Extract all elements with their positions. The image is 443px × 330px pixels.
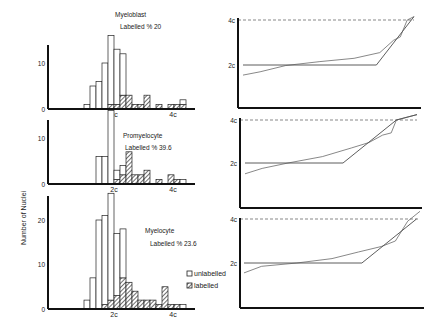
bar-unlabelled xyxy=(96,81,102,109)
bar-unlabelled xyxy=(114,49,120,104)
y-tick-label: 0 xyxy=(41,306,45,313)
panel-subtitle: Labelled % 23.6 xyxy=(150,240,197,247)
bar-labelled xyxy=(114,296,120,309)
histogram-myeloblast: 0102c4cMyeloblastLabelled % 20 xyxy=(38,11,195,118)
bar-unlabelled xyxy=(120,54,126,95)
curve-observed xyxy=(244,211,420,273)
bar-labelled xyxy=(108,300,114,309)
bar-labelled xyxy=(126,95,132,109)
x-tick-label: 2c xyxy=(110,311,118,318)
legend: unlabelled labelled xyxy=(187,270,226,289)
curve-plot-myeloblast: 4c2c xyxy=(228,17,421,109)
bar-labelled xyxy=(126,152,132,184)
histogram-myelocyte: 010202c4cMyelocyteLabelled % 23.6 xyxy=(38,193,197,318)
panel-title: Promyelocyte xyxy=(123,132,163,140)
curve-model xyxy=(243,17,414,65)
y-axis-label: Number of Nuclei xyxy=(20,190,27,245)
bar-unlabelled xyxy=(108,193,114,300)
y-tick-label: 0 xyxy=(41,106,45,113)
bar-labelled xyxy=(120,95,126,109)
curve-model xyxy=(244,219,417,263)
bar-labelled xyxy=(120,175,126,184)
y-tick-label-4c: 4c xyxy=(230,117,238,124)
bar-unlabelled xyxy=(120,166,126,175)
y-tick-label-2c: 2c xyxy=(230,160,238,167)
bar-labelled xyxy=(144,300,150,309)
bar-labelled xyxy=(138,175,144,184)
y-tick-label: 20 xyxy=(38,217,46,224)
curve-plot-myelocyte: 4c2c xyxy=(230,211,424,308)
panel-title: Myeloblast xyxy=(115,11,146,19)
panel-subtitle: Labelled % 39.6 xyxy=(125,144,172,151)
y-tick-label-2c: 2c xyxy=(228,62,236,69)
x-tick-label: 4c xyxy=(169,111,177,118)
bar-labelled xyxy=(138,300,144,309)
curve-model xyxy=(245,115,417,163)
bar-unlabelled xyxy=(114,233,120,295)
legend-label-unlabelled: unlabelled xyxy=(194,270,226,277)
bar-labelled xyxy=(120,278,126,309)
curve-observed xyxy=(243,17,414,76)
y-tick-label: 10 xyxy=(38,261,46,268)
bar-unlabelled xyxy=(114,170,120,179)
bar-labelled xyxy=(168,175,174,184)
legend-swatch-unlabelled xyxy=(187,271,192,276)
legend-swatch-labelled xyxy=(187,283,192,288)
bar-unlabelled xyxy=(108,110,114,184)
bar-unlabelled xyxy=(96,156,102,184)
y-tick-label: 10 xyxy=(38,135,46,142)
bar-unlabelled xyxy=(108,35,114,104)
bar-unlabelled xyxy=(84,300,90,309)
bar-labelled xyxy=(144,170,150,184)
legend-label-labelled: labelled xyxy=(194,282,218,289)
bar-labelled xyxy=(126,282,132,309)
curve-plot-promyelocyte: 4c2c xyxy=(230,115,422,208)
y-tick-label-4c: 4c xyxy=(228,17,236,24)
histogram-promyelocyte: 0102c4cPromyelocyteLabelled % 39.6 xyxy=(38,110,195,193)
bar-unlabelled xyxy=(90,278,96,309)
bar-unlabelled xyxy=(102,156,108,184)
bar-labelled xyxy=(132,175,138,184)
y-tick-label: 0 xyxy=(41,181,45,188)
x-tick-label: 2c xyxy=(110,186,118,193)
bar-unlabelled xyxy=(90,86,96,109)
bar-labelled xyxy=(144,95,150,109)
x-tick-label: 4c xyxy=(169,311,177,318)
y-tick-label-4c: 4c xyxy=(230,216,238,223)
bar-unlabelled xyxy=(180,100,186,105)
bar-unlabelled xyxy=(96,220,102,309)
bar-labelled xyxy=(162,287,168,309)
panel-title: Myelocyte xyxy=(145,227,175,235)
y-tick-label-2c: 2c xyxy=(230,260,238,267)
bar-unlabelled xyxy=(120,229,126,278)
bar-labelled xyxy=(150,300,156,309)
curve-observed xyxy=(245,115,417,174)
panel-subtitle: Labelled % 20 xyxy=(120,23,162,30)
figure: Number of Nuclei 0102c4cMyeloblastLabell… xyxy=(0,0,443,330)
x-tick-label: 4c xyxy=(169,186,177,193)
bar-labelled xyxy=(132,291,138,309)
y-tick-label: 10 xyxy=(38,60,46,67)
bar-unlabelled xyxy=(102,63,108,109)
bar-unlabelled xyxy=(102,216,108,305)
